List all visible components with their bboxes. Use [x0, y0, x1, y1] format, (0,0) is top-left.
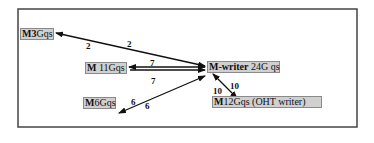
node-label-rest: 12Gqs (OHT writer)	[223, 97, 305, 107]
node-label-prefix: M	[85, 98, 94, 108]
network-diagram: M3GqsM 11GqsM-writer 24G qsM6GqsM12Gqs (…	[0, 0, 374, 143]
edge-weight-label: 7	[151, 77, 156, 86]
edge-weight-label: 10	[213, 87, 222, 96]
node-m3: M3Gqs	[20, 28, 54, 40]
node-m6: M6Gqs	[83, 97, 116, 109]
edge-weight-label: 6	[145, 102, 150, 111]
edge-mwriter-m3	[56, 33, 205, 66]
node-label-rest: 11Gqs	[96, 63, 124, 73]
diagram-edges	[0, 0, 374, 143]
node-label-prefix: M	[214, 97, 223, 107]
edge-mwriter-m6	[119, 76, 205, 113]
node-mwriter: M-writer 24G qs	[207, 61, 280, 73]
edge-weight-label: 6	[131, 98, 136, 107]
node-label-rest: 6Gqs	[94, 98, 115, 108]
node-label-rest: 24G qs	[248, 62, 279, 72]
diagram-frame	[18, 9, 357, 127]
node-m12: M12Gqs (OHT writer)	[212, 96, 322, 108]
edge-weight-label: 2	[86, 42, 91, 51]
edge-weight-label: 7	[150, 59, 155, 68]
edge-weight-label: 10	[230, 82, 239, 91]
node-label-prefix: M-writer	[209, 62, 248, 72]
node-label-prefix: M3	[22, 29, 36, 39]
node-label-prefix: M	[87, 63, 96, 73]
edge-weight-label: 2	[127, 40, 132, 49]
node-m11: M 11Gqs	[85, 62, 127, 74]
node-label-rest: Gqs	[36, 29, 52, 39]
